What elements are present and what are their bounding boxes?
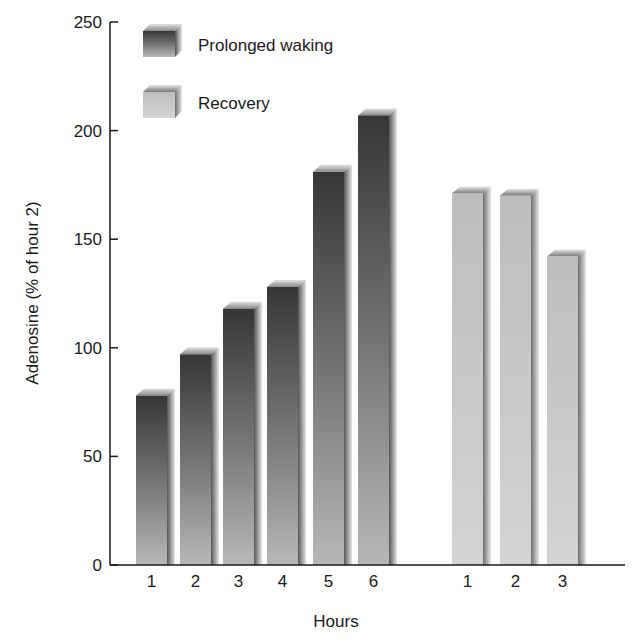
y-tick-label: 150 xyxy=(74,230,102,249)
bar-recovery-1 xyxy=(452,187,491,565)
bar-prolonged-waking-1 xyxy=(136,389,175,565)
legend-swatch-prolonged-waking xyxy=(143,24,182,57)
y-tick-label: 0 xyxy=(93,556,102,575)
x-tick-label: 4 xyxy=(278,572,287,591)
bar-prolonged-waking-2 xyxy=(180,347,219,565)
legend-label-prolonged-waking: Prolonged waking xyxy=(198,36,333,55)
y-axis-title: Adenosine (% of hour 2) xyxy=(23,201,42,384)
x-tick-labels: 123456123 xyxy=(147,572,567,591)
x-tick-label: 2 xyxy=(191,572,200,591)
bar-prolonged-waking-5 xyxy=(313,165,352,565)
x-tick-label: 1 xyxy=(463,572,472,591)
adenosine-bar-chart: Prolonged waking Recovery 05010015020025… xyxy=(0,0,644,640)
bar-recovery-2 xyxy=(500,189,539,565)
y-axis: 050100150200250 xyxy=(74,13,118,575)
legend-swatch-recovery xyxy=(143,85,182,118)
x-axis-title: Hours xyxy=(313,612,358,631)
x-tick-label: 6 xyxy=(369,572,378,591)
chart-legend: Prolonged waking Recovery xyxy=(143,24,333,118)
bar-prolonged-waking-3 xyxy=(223,302,262,565)
bar-prolonged-waking-6 xyxy=(358,108,397,565)
x-tick-label: 1 xyxy=(147,572,156,591)
x-tick-label: 3 xyxy=(558,572,567,591)
x-tick-label: 5 xyxy=(324,572,333,591)
bars-group xyxy=(136,108,586,565)
y-tick-label: 250 xyxy=(74,13,102,32)
bar-recovery-3 xyxy=(547,250,586,565)
y-tick-label: 100 xyxy=(74,339,102,358)
bar-prolonged-waking-4 xyxy=(267,280,306,565)
y-tick-label: 50 xyxy=(83,447,102,466)
y-tick-label: 200 xyxy=(74,122,102,141)
x-tick-label: 2 xyxy=(511,572,520,591)
legend-label-recovery: Recovery xyxy=(198,94,270,113)
x-tick-label: 3 xyxy=(234,572,243,591)
